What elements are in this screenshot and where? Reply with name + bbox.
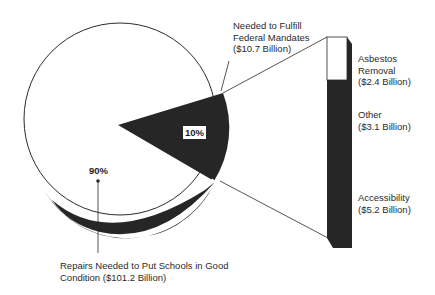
label-other-line1: Other	[358, 109, 411, 121]
label-federal-line1: Needed to Fulfill	[233, 20, 310, 32]
pct-repairs: 90%	[89, 165, 108, 176]
bar-side-3d	[347, 37, 352, 248]
breakdown-bar	[327, 37, 352, 248]
label-federal-line2: Federal Mandates	[233, 32, 310, 44]
pie-bar-chart	[0, 0, 435, 295]
label-accessibility: Accessibility ($5.2 Billion)	[358, 192, 411, 215]
label-repairs-line1: Repairs Needed to Put Schools in Good	[60, 260, 228, 272]
pct-federal: 10%	[183, 126, 206, 139]
label-accessibility-line2: ($5.2 Billion)	[358, 204, 411, 216]
bar-segment-asbestos	[327, 37, 347, 80]
connector-bottom	[220, 181, 328, 238]
label-other-line2: ($3.1 Billion)	[358, 121, 411, 133]
bar-segment-other-accessibility	[327, 80, 347, 248]
label-federal: Needed to Fulfill Federal Mandates ($10.…	[233, 20, 310, 55]
label-asbestos: Asbestos Removal ($2.4 Billion)	[358, 53, 411, 88]
label-repairs-line2: Condition ($101.2 Billion)	[60, 272, 228, 284]
label-asbestos-line2: Removal	[358, 65, 411, 77]
label-other: Other ($3.1 Billion)	[358, 109, 411, 132]
leader-federal	[221, 61, 229, 91]
label-asbestos-line1: Asbestos	[358, 53, 411, 65]
label-accessibility-line1: Accessibility	[358, 192, 411, 204]
label-repairs: Repairs Needed to Put Schools in Good Co…	[60, 260, 228, 283]
label-federal-line3: ($10.7 Billion)	[233, 43, 310, 55]
label-asbestos-line3: ($2.4 Billion)	[358, 76, 411, 88]
